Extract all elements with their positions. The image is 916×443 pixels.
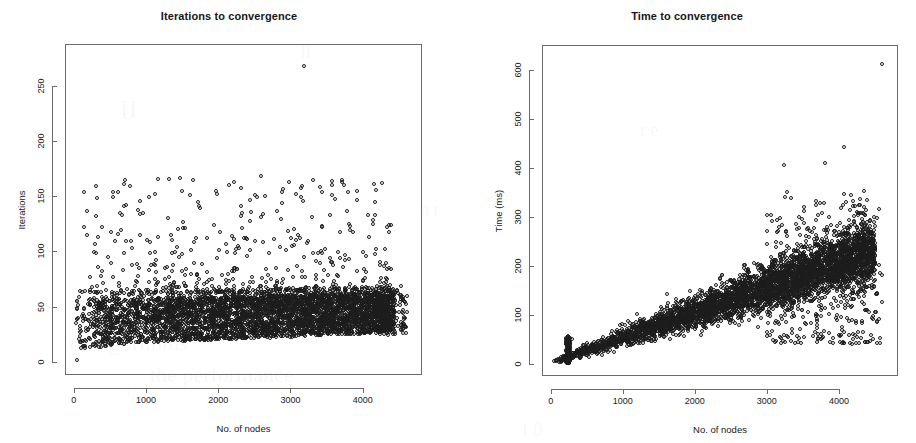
data-point (849, 223, 853, 227)
data-point (723, 306, 727, 310)
data-point (648, 337, 652, 341)
data-point (388, 283, 392, 287)
data-point (665, 292, 669, 296)
data-point (742, 299, 746, 303)
data-point (170, 269, 174, 273)
y-tick (529, 70, 534, 71)
data-point (117, 284, 121, 288)
data-point (843, 303, 847, 307)
data-point (112, 291, 116, 295)
y-tick (529, 266, 534, 267)
data-point (371, 222, 375, 226)
data-point (636, 334, 640, 338)
data-point (843, 287, 847, 291)
data-point (195, 273, 199, 277)
y-tick (52, 86, 57, 87)
data-point (366, 213, 370, 217)
data-point (812, 258, 816, 262)
data-point (625, 340, 629, 344)
data-point (865, 198, 869, 202)
data-point (167, 177, 171, 181)
data-point (880, 273, 884, 277)
data-point (854, 319, 858, 323)
data-point (790, 304, 794, 308)
data-point (798, 327, 802, 331)
y-tick (529, 315, 534, 316)
data-point (336, 328, 340, 332)
data-point (170, 286, 174, 290)
data-point (106, 340, 110, 344)
data-point (801, 281, 805, 285)
data-point (100, 306, 104, 310)
panel-time: Time to convergence 01000200030004000010… (458, 0, 916, 443)
data-point (88, 345, 92, 349)
data-point (842, 145, 846, 149)
data-point (248, 248, 252, 252)
data-point (166, 216, 170, 220)
data-point (778, 255, 782, 259)
data-point (756, 302, 760, 306)
data-point (116, 190, 120, 194)
data-point (263, 326, 267, 330)
data-point (233, 251, 237, 255)
data-point (336, 250, 340, 254)
data-point (850, 342, 854, 346)
data-point (298, 298, 302, 302)
data-point (668, 337, 672, 341)
data-point (205, 270, 209, 274)
data-point (374, 247, 378, 251)
data-point (765, 229, 769, 233)
data-point (302, 64, 306, 68)
data-point (383, 247, 387, 251)
data-point (361, 291, 365, 295)
data-point (285, 302, 289, 306)
data-point (394, 319, 398, 323)
data-point (734, 282, 738, 286)
data-point (178, 176, 182, 180)
data-point (96, 324, 100, 328)
y-tick (52, 362, 57, 363)
data-point (838, 340, 842, 344)
data-point (364, 270, 368, 274)
data-point (705, 315, 709, 319)
data-point (799, 258, 803, 262)
data-point (858, 203, 862, 207)
data-point (817, 264, 821, 268)
data-point (374, 188, 378, 192)
data-point (721, 294, 725, 298)
data-point (75, 358, 79, 362)
data-point (348, 224, 352, 228)
data-point (151, 328, 155, 332)
data-point (305, 241, 309, 245)
data-point (578, 356, 582, 360)
data-point (737, 323, 741, 327)
data-point (774, 240, 778, 244)
data-point (734, 303, 738, 307)
data-point (720, 273, 724, 277)
data-point (137, 340, 141, 344)
data-point (756, 262, 760, 266)
data-point (166, 339, 170, 343)
data-point (321, 279, 325, 283)
data-point (330, 183, 334, 187)
data-point (802, 300, 806, 304)
data-point (237, 290, 241, 294)
data-point (847, 333, 851, 337)
data-point (207, 291, 211, 295)
data-point (216, 324, 220, 328)
data-point (248, 219, 252, 223)
data-point (249, 307, 253, 311)
data-point (827, 215, 831, 219)
data-point (372, 182, 376, 186)
data-point (347, 257, 351, 261)
data-point (194, 337, 198, 341)
data-point (303, 275, 307, 279)
data-point (365, 286, 369, 290)
data-point (182, 281, 186, 285)
data-point (348, 282, 352, 286)
data-point (93, 335, 97, 339)
data-point (371, 299, 375, 303)
data-point (811, 334, 815, 338)
data-point (189, 248, 193, 252)
data-point (147, 268, 151, 272)
